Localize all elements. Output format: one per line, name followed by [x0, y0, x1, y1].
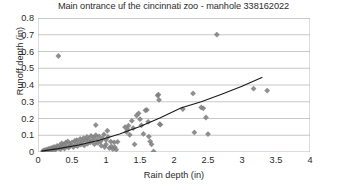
data-point: [190, 90, 196, 96]
data-point: [203, 115, 209, 121]
y-tick-label: 0.4: [21, 80, 34, 90]
data-point: [264, 88, 270, 94]
x-tick-label: 3: [239, 155, 244, 165]
data-point: [151, 149, 157, 152]
y-tick-label: 0.8: [21, 13, 34, 23]
x-tick-label: 2: [171, 155, 176, 165]
data-markers: [40, 32, 270, 152]
y-tick-label: 0.2: [21, 114, 34, 124]
y-tick-label: 0.7: [21, 30, 34, 40]
x-tick-label: 1.5: [134, 155, 147, 165]
data-point: [56, 53, 62, 59]
plot-area: 00.10.20.30.40.50.60.70.8 00.511.522.533…: [38, 18, 310, 152]
data-point: [205, 131, 211, 137]
x-tick-label: 0: [35, 155, 40, 165]
grid-lines: [38, 18, 310, 152]
x-tick-label: 2.5: [202, 155, 215, 165]
x-tick-label: 4: [307, 155, 312, 165]
y-tick-label: 0.3: [21, 97, 34, 107]
chart-container: Main ontrance uf the cincinnati zoo - ma…: [0, 0, 347, 190]
data-point: [214, 32, 220, 38]
x-tick-label: 0.5: [66, 155, 79, 165]
chart-title: Main ontrance uf the cincinnati zoo - ma…: [0, 1, 347, 11]
y-tick-label: 0.6: [21, 47, 34, 57]
data-point: [93, 122, 99, 128]
x-tick-label: 1: [103, 155, 108, 165]
data-point: [137, 116, 143, 122]
data-point: [251, 86, 257, 92]
x-tick-label: 3.5: [270, 155, 283, 165]
y-tick-label: 0.5: [21, 63, 34, 73]
scatter-plot-svg: [38, 18, 310, 152]
y-tick-label: 0: [29, 147, 34, 157]
data-point: [141, 131, 147, 137]
y-tick-label: 0.1: [21, 130, 34, 140]
data-point: [104, 128, 110, 134]
data-point: [146, 134, 152, 140]
data-point: [192, 130, 198, 136]
data-point: [132, 141, 138, 147]
x-axis-label: Rain depth (in): [38, 170, 310, 180]
